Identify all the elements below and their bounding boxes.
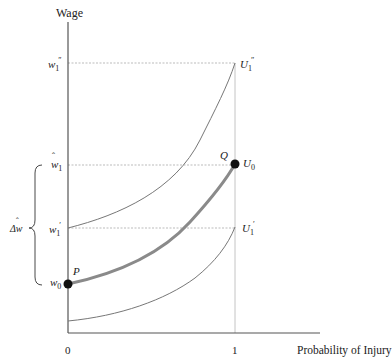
point-label-P: P xyxy=(73,266,80,277)
curve-label-U1-prime: U1′ xyxy=(242,221,255,237)
x-tick-1: 1 xyxy=(232,345,238,356)
point-label-Q: Q xyxy=(220,150,228,161)
y-tick-sub: 1 xyxy=(56,229,60,238)
hat-accent: ˆ xyxy=(52,152,55,161)
y-tick-sub: 1 xyxy=(58,164,62,173)
curve-U1-prime xyxy=(68,227,235,321)
curve-U0 xyxy=(68,164,235,284)
y-tick-w1-hat: ˆw1 xyxy=(51,159,62,173)
curve-label-sub: 0 xyxy=(251,163,255,172)
curve-label-U0: U0 xyxy=(243,158,255,172)
y-tick-sup: ″ xyxy=(58,56,61,65)
curve-label-U1-double-prime: U1″ xyxy=(240,57,254,73)
y-axis-label: Wage xyxy=(56,7,83,19)
y-tick-w1-prime: w1′ xyxy=(49,222,61,238)
curve-U1-double-prime xyxy=(68,63,235,228)
x-tick-0: 0 xyxy=(65,345,71,356)
y-tick-sup: ′ xyxy=(59,221,61,230)
delta-w-brace xyxy=(29,165,42,285)
hat-accent: ˆ xyxy=(16,218,19,226)
curve-label-base: U xyxy=(242,222,250,234)
point-P-dot xyxy=(64,280,73,289)
axes xyxy=(68,22,320,333)
delta-w-hat-label: ˆΔw xyxy=(10,224,23,234)
point-Q-dot xyxy=(231,160,240,169)
y-tick-sub: 1 xyxy=(55,64,59,73)
curve-label-sup: ″ xyxy=(251,56,254,65)
y-tick-sub: 0 xyxy=(57,282,61,291)
curve-label-sub: 1 xyxy=(248,64,252,73)
curve-label-base: U xyxy=(243,157,251,169)
curve-label-sup: ′ xyxy=(253,220,255,229)
y-tick-w1-double-prime: w1″ xyxy=(48,57,62,73)
x-axis-label: Probability of Injury xyxy=(297,345,392,357)
curve-label-base: U xyxy=(240,58,248,70)
y-tick-w0: w0 xyxy=(50,277,61,291)
curve-label-sub: 1 xyxy=(250,228,254,237)
indifference-curves xyxy=(68,63,235,321)
